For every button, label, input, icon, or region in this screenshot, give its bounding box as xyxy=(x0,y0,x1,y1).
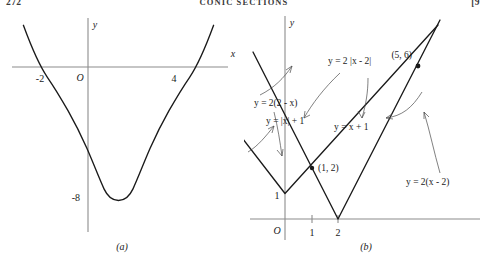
equation-label-two-2-minus-x: y = 2(2 - x) xyxy=(254,98,297,109)
intersection-point-5-6 xyxy=(416,64,421,69)
equation-label-abs-x-plus-1: y = |x| + 1 xyxy=(266,116,305,126)
x-tick-label-2: 2 xyxy=(336,227,341,238)
figure-page: 272 CONIC SECTIONS [9 x y O -2 4 -8 (a) xyxy=(0,0,488,256)
origin-label-b: O xyxy=(273,225,280,236)
equation-label-x-plus-1: y = x + 1 xyxy=(334,122,369,132)
figure-panel-b: y O 1 2 1 (1, 2) (5, 6) y = 2(2 - x) y =… xyxy=(244,0,488,256)
origin-label-a: O xyxy=(76,72,83,83)
figure-a-svg: x y O -2 4 -8 xyxy=(0,0,244,256)
leader-two-2-minus-x xyxy=(260,66,292,95)
y-intercept-label: 1 xyxy=(275,190,280,201)
x-axis-label-a: x xyxy=(230,48,236,59)
y-axis-label-a: y xyxy=(92,19,98,30)
point-label-1-2: (1, 2) xyxy=(318,163,339,174)
point-label-5-6: (5, 6) xyxy=(391,50,412,61)
figure-caption-b: (b) xyxy=(244,241,488,252)
leader-two-x-minus-2-lower xyxy=(424,112,440,173)
tick-label-root-right: 4 xyxy=(172,73,177,84)
tick-label-root-left: -2 xyxy=(36,73,44,84)
equation-label-abs-2x-minus-2: y = 2 |x - 2| xyxy=(328,56,371,66)
leader-abs-x-plus-1-arrow xyxy=(277,149,283,156)
leader-neg-x-plus-1 xyxy=(248,126,274,152)
figure-panel-a: x y O -2 4 -8 (a) xyxy=(0,0,244,256)
y-axis-label-b: y xyxy=(289,17,295,28)
figure-caption-a: (a) xyxy=(0,241,244,252)
figure-b-svg: y O 1 2 1 (1, 2) (5, 6) y = 2(2 - x) y =… xyxy=(244,0,488,256)
tick-label-vertex-y: -8 xyxy=(72,192,80,203)
leader-abs-2x-minus-2 xyxy=(304,73,340,118)
intersection-point-1-2 xyxy=(310,166,314,170)
parabola-curve xyxy=(23,25,213,200)
x-tick-label-1: 1 xyxy=(310,227,315,238)
equation-label-two-x-minus-2: y = 2(x - 2) xyxy=(406,177,449,188)
